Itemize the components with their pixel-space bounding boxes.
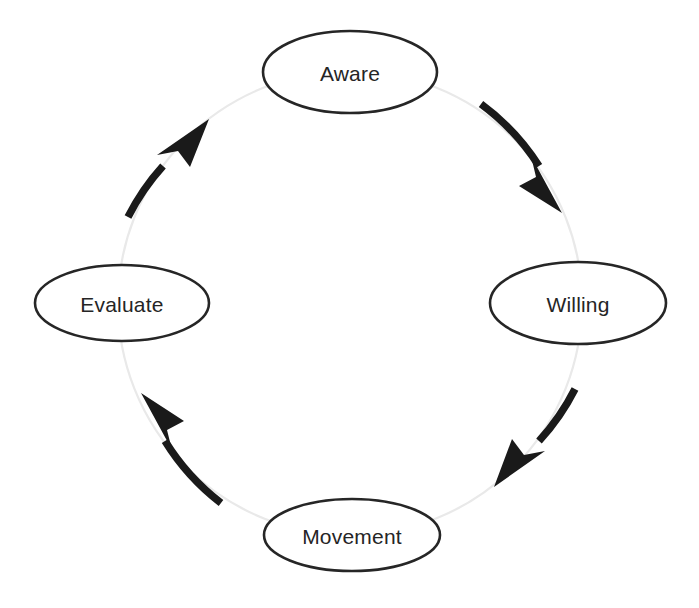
arrow-willing-to-movement	[494, 389, 575, 487]
node-aware-label: Aware	[320, 62, 380, 85]
arrow-shaft	[165, 441, 221, 503]
cycle-diagram: Aware Willing Movement Evaluate	[0, 0, 699, 608]
arrow-head-icon	[494, 439, 545, 487]
node-willing[interactable]: Willing	[490, 262, 666, 344]
node-aware[interactable]: Aware	[263, 31, 437, 113]
node-movement-label: Movement	[302, 525, 402, 548]
arrow-shaft	[128, 166, 163, 217]
node-evaluate[interactable]: Evaluate	[35, 265, 209, 341]
cycle-diagram-canvas: Aware Willing Movement Evaluate	[0, 0, 699, 608]
node-willing-label: Willing	[546, 293, 609, 316]
arrow-head-icon	[157, 119, 209, 167]
node-movement[interactable]: Movement	[264, 499, 440, 571]
node-evaluate-label: Evaluate	[80, 293, 163, 316]
arrow-shaft	[539, 389, 575, 441]
arrow-evaluate-to-aware	[128, 119, 209, 217]
